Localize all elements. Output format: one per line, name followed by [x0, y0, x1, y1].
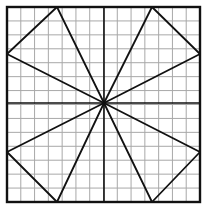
- geometry-diagram: [0, 0, 209, 214]
